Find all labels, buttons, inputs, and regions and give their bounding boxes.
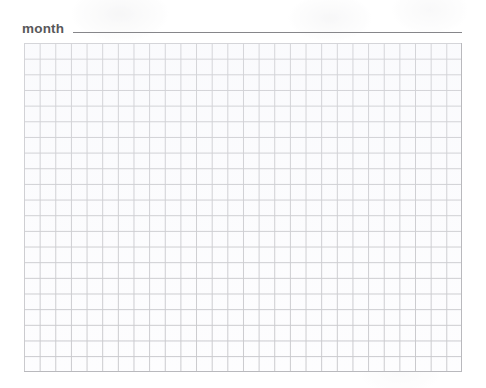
- grid-tint-overlay: [24, 43, 461, 371]
- month-field-label: month: [22, 22, 64, 36]
- graph-paper-grid[interactable]: [24, 43, 462, 372]
- header-row: month: [22, 19, 462, 39]
- graph-paper-worksheet: month: [0, 0, 486, 388]
- month-fill-in-line[interactable]: [73, 32, 462, 33]
